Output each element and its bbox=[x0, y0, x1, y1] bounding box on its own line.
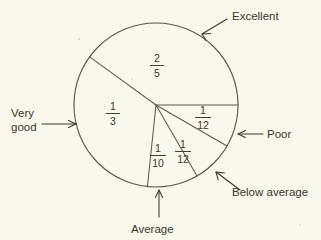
fraction-denominator: 10 bbox=[152, 157, 164, 169]
callout-label-very-good-line1: Very bbox=[11, 107, 34, 119]
fraction-denominator: 3 bbox=[110, 115, 116, 127]
fraction-numerator: 1 bbox=[110, 100, 116, 112]
callout-label-poor: Poor bbox=[267, 128, 291, 140]
fraction-numerator: 1 bbox=[180, 138, 186, 150]
pie-chart-figure: 2 5 1 3 1 12 1 12 1 10 Excellent Very go… bbox=[0, 0, 321, 240]
callout-label-average: Average bbox=[131, 223, 174, 235]
fraction-numerator: 2 bbox=[154, 52, 160, 64]
callout-label-very-good-line2: good bbox=[11, 121, 37, 133]
fraction-denominator: 12 bbox=[197, 119, 209, 131]
paper-speck bbox=[131, 78, 133, 80]
fraction-numerator: 1 bbox=[155, 142, 161, 154]
fraction-denominator: 5 bbox=[154, 67, 160, 79]
paper-background bbox=[0, 0, 321, 240]
fraction-numerator: 1 bbox=[200, 104, 206, 116]
fraction-denominator: 12 bbox=[177, 153, 189, 165]
callout-label-excellent: Excellent bbox=[232, 10, 279, 22]
paper-speck bbox=[299, 224, 301, 226]
paper-speck bbox=[78, 38, 80, 40]
callout-label-below-average: Below average bbox=[232, 186, 308, 198]
